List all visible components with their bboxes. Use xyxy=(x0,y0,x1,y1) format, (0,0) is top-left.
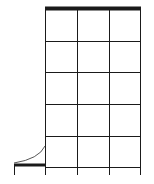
door-swing-stub xyxy=(14,146,45,175)
grid xyxy=(45,8,141,175)
grid-diagram xyxy=(0,0,154,184)
door-swing-arc xyxy=(14,146,45,163)
